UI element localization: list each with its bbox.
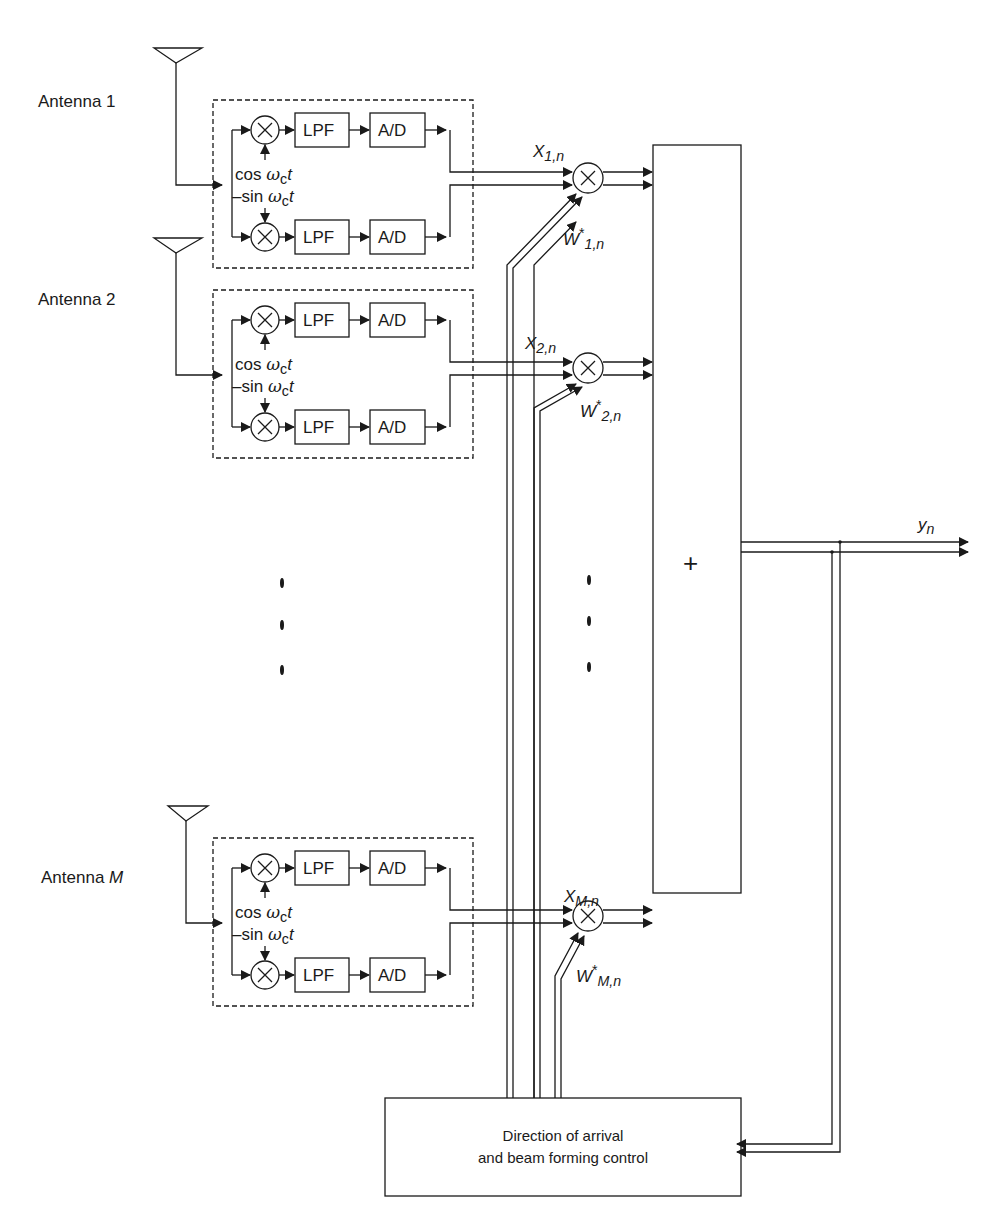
lpf-label: LPF (303, 859, 334, 879)
antenna-2-icon (154, 238, 202, 253)
antenna-m-prefix: Antenna (41, 868, 109, 887)
x1n-label: X1,n (533, 142, 564, 164)
summer-plus-symbol: + (683, 548, 698, 579)
cos-lo-label: cos ωct (235, 164, 292, 187)
output-label: yn (918, 515, 934, 537)
lpf-label: LPF (303, 966, 334, 986)
doa-control-label: Direction of arrival and beam forming co… (385, 1098, 741, 1196)
doa-line-2: and beam forming control (478, 1147, 648, 1169)
x2n-label: X2,n (525, 334, 556, 356)
adc-label: A/D (378, 418, 406, 438)
antenna-2-label: Antenna 2 (38, 290, 116, 310)
adc-label: A/D (378, 121, 406, 141)
xmn-label: XM,n (564, 887, 599, 909)
antenna-1-icon (154, 48, 202, 63)
antenna-m-icon (168, 806, 208, 821)
diagram-canvas (0, 0, 1003, 1232)
adc-label: A/D (378, 228, 406, 248)
sin-lo-label: –sin ωct (232, 924, 294, 947)
doa-line-1: Direction of arrival (503, 1125, 624, 1147)
channel-1 (154, 48, 652, 1098)
cos-lo-label: cos ωct (235, 354, 292, 377)
adc-label: A/D (378, 966, 406, 986)
cos-lo-label: cos ωct (235, 902, 292, 925)
adc-label: A/D (378, 311, 406, 331)
adc-label: A/D (378, 859, 406, 879)
lpf-label: LPF (303, 228, 334, 248)
lpf-label: LPF (303, 418, 334, 438)
wmn-label: W*M,n (576, 962, 621, 989)
summer-block (653, 145, 741, 893)
antenna-m-var: M (109, 868, 123, 887)
antenna-1-label: Antenna 1 (38, 92, 116, 112)
lpf-label: LPF (303, 311, 334, 331)
ellipsis-dots (280, 575, 591, 675)
sin-lo-label: –sin ωct (232, 186, 294, 209)
lpf-label: LPF (303, 121, 334, 141)
w1n-label: W*1,n (563, 225, 604, 252)
w2n-label: W*2,n (580, 397, 621, 424)
sin-lo-label: –sin ωct (232, 376, 294, 399)
antenna-m-label: Antenna M (41, 868, 123, 888)
